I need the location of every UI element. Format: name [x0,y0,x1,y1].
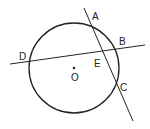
label-b: B [119,36,126,47]
geometry-diagram: A B C D E O [0,0,150,129]
label-e: E [94,58,101,69]
label-o: O [71,72,79,83]
secant-line-db [10,45,145,64]
diagram-svg: A B C D E O [0,0,150,129]
center-point-o [73,67,75,69]
label-d: D [19,51,26,62]
label-a: A [92,11,99,22]
label-c: C [120,82,127,93]
secant-line-ac [84,8,133,121]
